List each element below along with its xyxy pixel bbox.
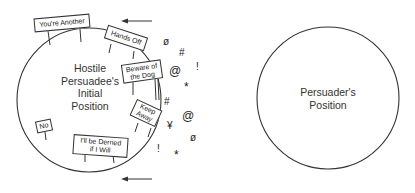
label-line: Hostile xyxy=(50,62,130,75)
sign-text: if I Will xyxy=(90,145,111,154)
label-line: Position xyxy=(50,100,130,113)
symbol-star: * xyxy=(174,150,179,160)
label-line: Initial xyxy=(50,87,130,100)
symbol-exclamation: ! xyxy=(196,62,199,72)
symbol-star: * xyxy=(184,82,189,92)
arrow-bottom-icon xyxy=(121,177,152,182)
symbol-hash: # xyxy=(164,97,170,107)
sign-text: No xyxy=(39,121,49,131)
label-line: Persuader's xyxy=(288,86,368,99)
symbol-at: @ xyxy=(182,111,194,121)
symbol-slashed-o: ø xyxy=(163,37,169,47)
symbol-exclamation: ! xyxy=(157,144,160,154)
symbol-slashed-o: ø xyxy=(190,133,196,143)
persuadee-label: Hostile Persuadee's Initial Position xyxy=(50,62,130,112)
label-line: Persuadee's xyxy=(50,75,130,88)
sign-ill-be-derned: I'll be Derned if I Will xyxy=(72,134,128,158)
sign-text: You're Another xyxy=(39,17,85,29)
label-line: Position xyxy=(288,99,368,112)
symbol-hash: # xyxy=(179,48,185,58)
arrow-top-icon xyxy=(121,19,152,24)
symbol-at: @ xyxy=(169,66,181,76)
persuader-label: Persuader's Position xyxy=(288,86,368,111)
symbol-yen: ¥ xyxy=(167,121,173,131)
